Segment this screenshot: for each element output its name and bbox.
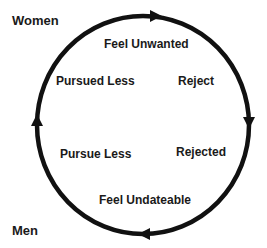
arrow-right-icon bbox=[150, 10, 162, 22]
arrow-up-icon bbox=[31, 114, 43, 126]
node-feel-unwanted: Feel Unwanted bbox=[104, 38, 189, 50]
node-pursue-less: Pursue Less bbox=[60, 148, 131, 160]
group-label-men: Men bbox=[12, 224, 38, 237]
cycle-diagram: Women Men Feel Unwanted Reject Rejected … bbox=[0, 0, 267, 248]
node-pursued-less: Pursued Less bbox=[56, 75, 135, 87]
node-rejected: Rejected bbox=[176, 146, 226, 158]
node-reject: Reject bbox=[178, 75, 214, 87]
node-feel-undateable: Feel Undateable bbox=[99, 194, 191, 206]
arrow-left-icon bbox=[138, 228, 150, 240]
arrow-down-icon bbox=[243, 117, 255, 129]
group-label-women: Women bbox=[12, 14, 59, 27]
